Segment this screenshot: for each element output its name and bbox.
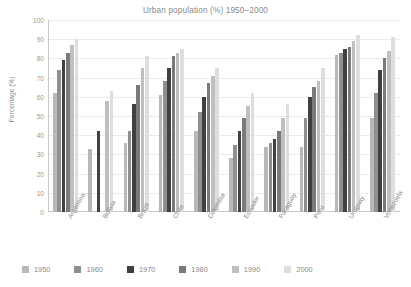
legend-item[interactable]: 1980 <box>179 265 207 274</box>
bar <box>348 47 352 212</box>
x-label-cell: Paraguay <box>259 214 294 258</box>
y-tick-label: 50 <box>4 113 44 120</box>
chart-title: Urban population (%) 1950–2000 <box>0 6 411 15</box>
bar <box>300 147 304 212</box>
bar <box>167 68 171 212</box>
legend-swatch-icon <box>284 266 291 273</box>
bar <box>176 53 180 212</box>
legend-swatch-icon <box>179 266 186 273</box>
bar <box>70 45 74 212</box>
x-label-cell: Ecuador <box>224 214 259 258</box>
bar-group <box>48 20 83 212</box>
y-axis-tick-labels: 1009080706050403020100 <box>0 20 44 212</box>
legend-label: 1950 <box>34 265 50 274</box>
bar <box>356 35 360 212</box>
legend-label: 1960 <box>86 265 102 274</box>
bar <box>339 53 343 212</box>
bar <box>281 118 285 212</box>
y-tick-label: 10 <box>4 189 44 196</box>
bar <box>242 118 246 212</box>
x-label-cell: Colombia <box>189 214 224 258</box>
legend-label: 1990 <box>244 265 260 274</box>
bar <box>105 101 109 212</box>
bar <box>264 147 268 212</box>
x-axis-tick-labels: ArgentinaBoliviaBrazilChileColombiaEcuad… <box>48 214 400 258</box>
bar <box>180 49 184 212</box>
bar <box>159 95 163 212</box>
bar-group <box>330 20 365 212</box>
bar <box>317 81 321 212</box>
x-label-cell: Uruguay <box>330 214 365 258</box>
bar-group <box>83 20 118 212</box>
legend-swatch-icon <box>74 266 81 273</box>
bar-group <box>224 20 259 212</box>
bar <box>378 70 382 212</box>
bar-group <box>118 20 153 212</box>
y-tick-label: 70 <box>4 74 44 81</box>
bar <box>88 149 92 212</box>
legend-swatch-icon <box>232 266 239 273</box>
bar <box>66 53 70 212</box>
x-label-cell: Bolivia <box>83 214 118 258</box>
bar <box>233 145 237 212</box>
legend-swatch-icon <box>22 266 29 273</box>
bar <box>194 131 198 212</box>
bar <box>75 39 79 212</box>
bar <box>352 41 356 212</box>
bar <box>370 118 374 212</box>
y-tick-label: 20 <box>4 170 44 177</box>
legend-label: 1980 <box>191 265 207 274</box>
legend-swatch-icon <box>127 266 134 273</box>
y-tick-label: 100 <box>4 17 44 24</box>
bar <box>238 131 242 212</box>
legend-label: 1970 <box>139 265 155 274</box>
x-label-cell: Argentina <box>48 214 83 258</box>
legend-item[interactable]: 1960 <box>74 265 102 274</box>
y-tick-label: 90 <box>4 36 44 43</box>
y-tick-label: 30 <box>4 151 44 158</box>
x-label-cell: Brazil <box>118 214 153 258</box>
bar <box>128 131 132 212</box>
legend-item[interactable]: 2000 <box>284 265 312 274</box>
bar <box>383 58 387 212</box>
bar <box>198 112 202 212</box>
bar <box>387 51 391 212</box>
bar <box>132 104 136 212</box>
bar-groups <box>48 20 400 212</box>
bar <box>53 93 57 212</box>
bar <box>321 68 325 212</box>
bar <box>343 49 347 212</box>
bar <box>308 97 312 212</box>
legend-item[interactable]: 1970 <box>127 265 155 274</box>
bar <box>57 70 61 212</box>
y-tick-label: 0 <box>4 209 44 216</box>
bar <box>202 97 206 212</box>
bar <box>163 81 167 212</box>
legend-item[interactable]: 1990 <box>232 265 260 274</box>
bar <box>312 87 316 212</box>
bar <box>335 55 339 212</box>
bar <box>269 143 273 212</box>
bar <box>304 118 308 212</box>
bar <box>277 131 281 212</box>
chart-legend: 195019601970198019902000 <box>22 262 402 276</box>
bar <box>246 106 250 212</box>
bar <box>215 68 219 212</box>
bar <box>172 56 176 212</box>
bar <box>273 139 277 212</box>
x-label-cell: Venezuela <box>365 214 400 258</box>
bar-group <box>294 20 329 212</box>
y-tick-label: 40 <box>4 132 44 139</box>
bar <box>136 85 140 212</box>
bar <box>145 56 149 212</box>
bar <box>207 83 211 212</box>
bar <box>97 131 101 212</box>
legend-item[interactable]: 1950 <box>22 265 50 274</box>
bar-group <box>154 20 189 212</box>
x-label-cell: Chile <box>154 214 189 258</box>
bar-group <box>189 20 224 212</box>
bar <box>62 60 66 212</box>
bar <box>374 93 378 212</box>
bar <box>141 68 145 212</box>
bar <box>211 76 215 212</box>
